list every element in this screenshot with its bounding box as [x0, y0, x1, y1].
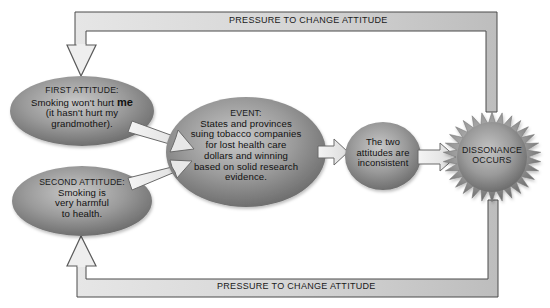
first-attitude-emphasis: me — [117, 96, 133, 108]
first-attitude-line3: grandmother). — [12, 119, 152, 130]
bottom-pressure-label: PRESSURE TO CHANGE ATTITUDE — [217, 281, 376, 291]
arrow-inconsistent-to-dissonance — [418, 143, 456, 171]
inconsistent-text: The two attitudes are inconsistent — [345, 137, 421, 169]
second-attitude-text: SECOND ATTITUDE: Smoking is very harmful… — [12, 178, 152, 220]
inconsistent-line3: inconsistent — [345, 158, 421, 169]
event-line6: evidence. — [176, 172, 316, 183]
dissonance-text: DISSONANCE OCCURS — [457, 146, 527, 166]
top-pressure-label: PRESSURE TO CHANGE ATTITUDE — [229, 15, 388, 25]
inconsistent-line1: The two — [345, 137, 421, 148]
event-text: EVENT: States and provinces suing tobacc… — [176, 109, 316, 183]
cognitive-dissonance-diagram: PRESSURE TO CHANGE ATTITUDE PRESSURE TO … — [0, 0, 550, 308]
first-attitude-line1-prefix: Smoking won't hurt — [31, 97, 117, 108]
event-line4: dollars and winning — [176, 151, 316, 162]
first-attitude-heading: FIRST ATTITUDE: — [12, 86, 152, 96]
dissonance-line2: OCCURS — [457, 156, 527, 166]
second-attitude-line3: to health. — [12, 209, 152, 220]
first-attitude-text: FIRST ATTITUDE: Smoking won't hurt me (i… — [12, 86, 152, 130]
